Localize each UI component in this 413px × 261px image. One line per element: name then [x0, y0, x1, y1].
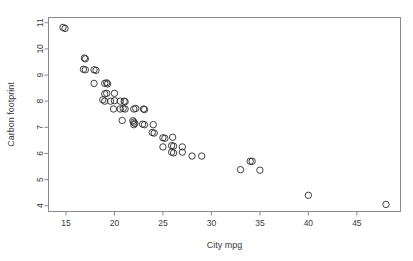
y-tick-label: 6 — [36, 151, 46, 156]
x-tick-label: 20 — [110, 218, 120, 228]
y-tick-label: 4 — [36, 203, 46, 208]
x-tick-label: 35 — [255, 218, 265, 228]
y-tick-label: 7 — [36, 125, 46, 130]
y-tick-label: 10 — [36, 44, 46, 54]
y-axis-title: Carbon footprint — [6, 82, 16, 147]
y-tick-label: 8 — [36, 99, 46, 104]
y-tick-label: 9 — [36, 72, 46, 77]
plot-canvas: 15202530354045 4567891011 City mpg Carbo… — [0, 0, 413, 261]
x-tick-label: 40 — [304, 218, 314, 228]
y-tick-label: 11 — [36, 18, 46, 27]
x-tick-label: 15 — [61, 218, 71, 228]
x-tick-label: 25 — [158, 218, 168, 228]
x-axis-title: City mpg — [207, 240, 243, 250]
y-tick-label: 5 — [36, 177, 46, 182]
scatter-plot-figure: 15202530354045 4567891011 City mpg Carbo… — [0, 0, 413, 261]
x-tick-label: 30 — [207, 218, 217, 228]
x-tick-label: 45 — [352, 218, 362, 228]
